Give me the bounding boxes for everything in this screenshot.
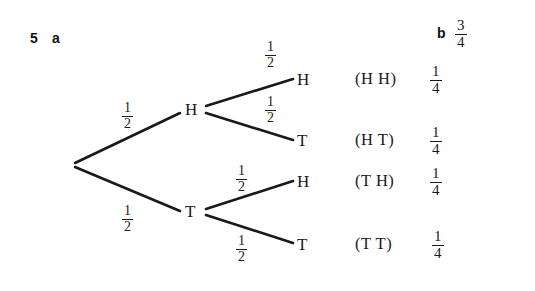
probability-t-to-tt-denominator: 2 <box>236 249 247 265</box>
outcome-tt-probability-denominator: 4 <box>432 245 444 262</box>
probability-t-to-th: 1 2 <box>236 164 247 194</box>
outcome-tt-probability-numerator: 1 <box>432 229 444 245</box>
outcome-th-probability-numerator: 1 <box>430 166 442 182</box>
probability-h-to-ht-numerator: 1 <box>265 95 276 110</box>
probability-h-to-ht: 1 2 <box>265 95 276 125</box>
probability-h-to-hh: 1 2 <box>265 40 276 70</box>
part-b-label: b <box>437 26 446 40</box>
outcome-tt-text: (T T) <box>355 236 392 253</box>
branch-t-to-tt <box>206 215 293 243</box>
node-h: H <box>185 101 197 118</box>
probability-h-to-hh-numerator: 1 <box>265 40 276 55</box>
branch-h-to-ht <box>206 113 293 140</box>
node-tt: T <box>297 236 307 253</box>
probability-h-to-hh-denominator: 2 <box>265 55 276 71</box>
outcome-ht-probability-denominator: 4 <box>430 141 442 158</box>
figure-canvas: 5 a b 3 4 H T 1 2 1 2 H T H T 1 2 1 <box>0 0 535 291</box>
outcome-ht-text: (H T) <box>355 132 394 149</box>
node-ht: T <box>297 132 307 149</box>
part-b-answer-denominator: 4 <box>455 34 467 51</box>
branch-h-to-hh <box>206 79 293 106</box>
outcome-ht-probability: 1 4 <box>430 125 442 158</box>
part-b-answer: 3 4 <box>455 18 467 51</box>
outcome-hh-probability: 1 4 <box>430 64 442 97</box>
probability-t-to-tt-numerator: 1 <box>236 234 247 249</box>
part-a-label: a <box>52 31 60 45</box>
probability-h-to-ht-denominator: 2 <box>265 110 276 126</box>
probability-root-to-t-denominator: 2 <box>122 219 133 235</box>
branch-t-to-th <box>206 181 293 209</box>
outcome-th-text: (T H) <box>355 173 394 190</box>
outcome-th-probability-denominator: 4 <box>430 182 442 199</box>
node-hh: H <box>297 71 309 88</box>
outcome-th-probability: 1 4 <box>430 166 442 199</box>
outcome-tt-probability: 1 4 <box>432 229 444 262</box>
question-number: 5 <box>30 31 38 45</box>
probability-t-to-th-numerator: 1 <box>236 164 247 179</box>
probability-root-to-h-numerator: 1 <box>122 101 133 116</box>
node-th: H <box>297 173 309 190</box>
probability-root-to-t: 1 2 <box>122 204 133 234</box>
probability-root-to-h: 1 2 <box>122 101 133 131</box>
part-b-answer-numerator: 3 <box>455 18 467 34</box>
outcome-hh-probability-numerator: 1 <box>430 64 442 80</box>
outcome-hh-text: (H H) <box>355 71 396 88</box>
probability-root-to-t-numerator: 1 <box>122 204 133 219</box>
outcome-ht-probability-numerator: 1 <box>430 125 442 141</box>
probability-t-to-th-denominator: 2 <box>236 179 247 195</box>
node-t: T <box>185 203 195 220</box>
outcome-hh-probability-denominator: 4 <box>430 80 442 97</box>
probability-t-to-tt: 1 2 <box>236 234 247 264</box>
probability-root-to-h-denominator: 2 <box>122 116 133 132</box>
